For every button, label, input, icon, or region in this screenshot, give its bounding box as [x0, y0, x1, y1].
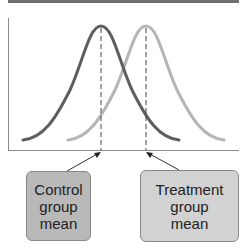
control-curve	[23, 26, 179, 140]
control-arrow	[67, 153, 99, 171]
treatment-curve	[68, 26, 224, 140]
control-group-mean-label: Control group mean	[26, 171, 91, 241]
treatment-label-text: Treatment group mean	[156, 181, 224, 232]
control-label-text: Control group mean	[34, 181, 82, 232]
treatment-arrow	[148, 153, 179, 170]
treatment-group-mean-label: Treatment group mean	[140, 170, 239, 242]
